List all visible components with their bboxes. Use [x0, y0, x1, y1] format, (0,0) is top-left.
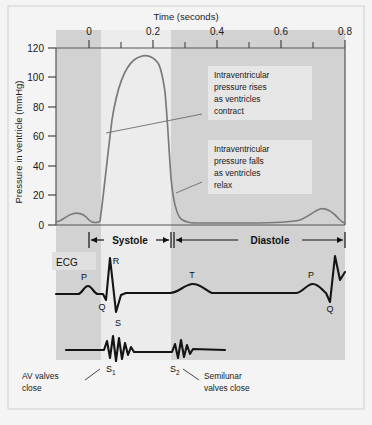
- ecg-label-Q1: Q: [98, 302, 105, 312]
- semilunar-note-line1: Semilunar: [204, 371, 242, 381]
- svg-text:as ventricles: as ventricles: [214, 168, 261, 178]
- svg-text:relax: relax: [214, 180, 233, 190]
- diastole-label: Diastole: [251, 235, 290, 246]
- ecg-label: ECG: [56, 257, 78, 268]
- time-tick-label-0.2: 0.2: [146, 26, 160, 37]
- time-tick-label-0.4: 0.4: [210, 26, 224, 37]
- svg-text:Intraventricular: Intraventricular: [214, 144, 270, 154]
- ecg-label-R: R: [113, 256, 120, 266]
- pressure-tick-label-40: 40: [33, 161, 45, 172]
- time-tick-label-0: 0: [86, 26, 92, 37]
- ecg-label-Q2: Q: [326, 304, 333, 314]
- svg-text:Intraventricular: Intraventricular: [214, 70, 270, 80]
- ecg-label-T: T: [189, 270, 195, 280]
- pressure-tick-label-60: 60: [33, 131, 45, 142]
- pressure-tick-label-80: 80: [33, 102, 45, 113]
- svg-text:contract: contract: [214, 106, 244, 116]
- time-tick-label-0.6: 0.6: [274, 26, 288, 37]
- ecg-label-S: S: [115, 318, 121, 328]
- pressure-axis-title: Pressure in ventricle (mmHg): [13, 81, 24, 204]
- pressure-tick-label-20: 20: [33, 190, 45, 201]
- band-systole: [101, 30, 171, 360]
- av-valves-note-line2: close: [22, 383, 42, 393]
- systole-label: Systole: [112, 235, 148, 246]
- band-previous-diastole: [56, 30, 101, 360]
- time-tick-label-0.8: 0.8: [338, 26, 352, 37]
- ecg-label-P2: P: [308, 270, 314, 280]
- av-valves-note-line1: AV valves: [22, 371, 59, 381]
- time-axis-title: Time (seconds): [153, 11, 218, 22]
- pressure-tick-label-0: 0: [38, 220, 44, 231]
- svg-text:pressure rises: pressure rises: [214, 82, 267, 92]
- svg-text:pressure falls: pressure falls: [214, 156, 264, 166]
- pressure-tick-label-100: 100: [27, 72, 44, 83]
- pressure-tick-label-120: 120: [27, 43, 44, 54]
- svg-text:as ventricles: as ventricles: [214, 94, 261, 104]
- ecg-label-P1: P: [81, 272, 87, 282]
- cardiac-cycle-figure: Time (seconds) 0 0.2 0.4 0.6 0.8 Pressur…: [0, 0, 372, 425]
- semilunar-note-line2: valves close: [204, 383, 250, 393]
